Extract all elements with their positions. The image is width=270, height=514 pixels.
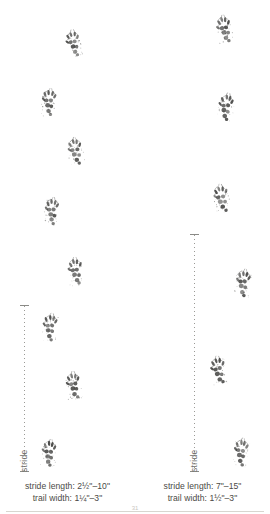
track-print	[212, 91, 240, 127]
track-print	[208, 182, 236, 218]
stride-dotted-line	[24, 306, 25, 471]
right-stride-length-text: stride length: 7"–15"	[135, 481, 270, 493]
track-print	[61, 370, 87, 405]
track-print	[227, 436, 255, 472]
track-print	[61, 28, 87, 62]
track-print	[36, 438, 62, 473]
left-stride-measure: stride	[20, 305, 29, 472]
page-footer-rule	[6, 511, 264, 512]
left-trail-width-text: trail width: 1¼"–3"	[0, 493, 135, 505]
right-caption: stride length: 7"–15" trail width: 1½"–3…	[135, 481, 270, 504]
page-number: 31	[0, 505, 270, 511]
right-stride-label: stride	[190, 449, 199, 472]
track-print	[63, 136, 90, 171]
track-print	[63, 256, 89, 291]
track-print	[36, 87, 62, 122]
track-print	[39, 196, 65, 230]
track-pattern-figure: stride stride length: 2½"–10" trail widt…	[0, 0, 270, 514]
stride-dotted-line	[194, 235, 195, 471]
track-print	[229, 267, 257, 303]
track-print	[205, 354, 233, 390]
left-caption: stride length: 2½"–10" trail width: 1¼"–…	[0, 481, 135, 504]
right-stride-measure: stride	[190, 234, 199, 472]
track-print	[211, 13, 239, 49]
left-stride-label: stride	[20, 449, 29, 472]
right-trail-width-text: trail width: 1½"–3"	[135, 493, 270, 505]
track-print	[37, 312, 64, 347]
left-stride-length-text: stride length: 2½"–10"	[0, 481, 135, 493]
